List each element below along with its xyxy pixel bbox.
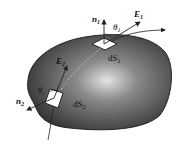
label-n2: n2: [16, 96, 24, 107]
label-theta1: θ1: [113, 22, 120, 33]
label-E1: E1: [133, 9, 143, 20]
label-n1: n1: [92, 14, 100, 25]
flux-diagram: n1 θ1 E1 dS1 E2 θ2 n2 dS2: [0, 0, 184, 145]
